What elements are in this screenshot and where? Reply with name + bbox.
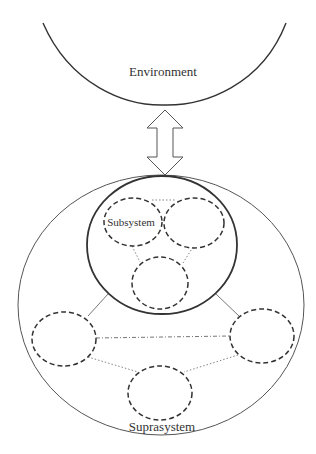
connector-system-right [216,294,240,317]
connector-system-left [88,294,108,316]
peer-system-right [230,309,294,363]
peer-system-left [32,312,96,366]
connector-left-bottom [88,357,138,372]
peer-system-bottom [128,366,192,420]
environment-label: Environment [129,64,197,79]
subsystem-label: Subsystem [107,216,155,228]
system-boundary [87,176,237,314]
connector-left-right [96,336,230,338]
double-arrow-icon [147,110,183,175]
system-diagram: Environment Subsystem Suprasystem [0,0,316,454]
connector-right-bottom [184,355,238,372]
suprasystem-label: Suprasystem [129,419,195,434]
